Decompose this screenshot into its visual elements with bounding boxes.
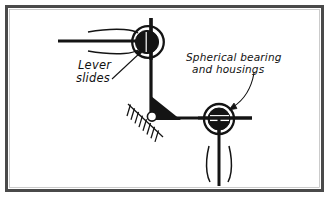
annotation-spherical-bearing-line2: and housings	[192, 63, 265, 75]
annotation-lever-slides-line1: Lever	[78, 58, 112, 72]
figure-root: Lever slides Spherical bearing and housi…	[0, 0, 329, 197]
pivot-pin	[147, 112, 156, 121]
linkage-diagram: Lever slides Spherical bearing and housi…	[0, 0, 329, 197]
annotation-spherical-bearing-line1: Spherical bearing	[186, 51, 282, 63]
upper-bearing-ball	[135, 30, 158, 53]
paper-background	[0, 0, 329, 197]
annotation-lever-slides-line2: slides	[76, 71, 110, 85]
